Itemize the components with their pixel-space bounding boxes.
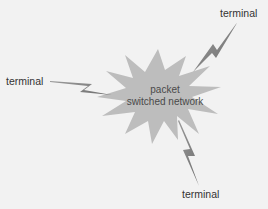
link-left-bolt-icon — [50, 81, 112, 95]
network-label-line1: packet — [110, 84, 220, 96]
terminal-bottom-label: terminal — [182, 189, 219, 200]
terminal-left-label: terminal — [6, 76, 43, 87]
network-label-line2: switched network — [110, 96, 220, 108]
link-topright-bolt-icon — [193, 23, 237, 72]
network-node-label: packet switched network — [110, 84, 220, 108]
terminal-topright-label: terminal — [220, 8, 257, 19]
diagram-canvas: packet switched network terminal termina… — [0, 0, 268, 209]
